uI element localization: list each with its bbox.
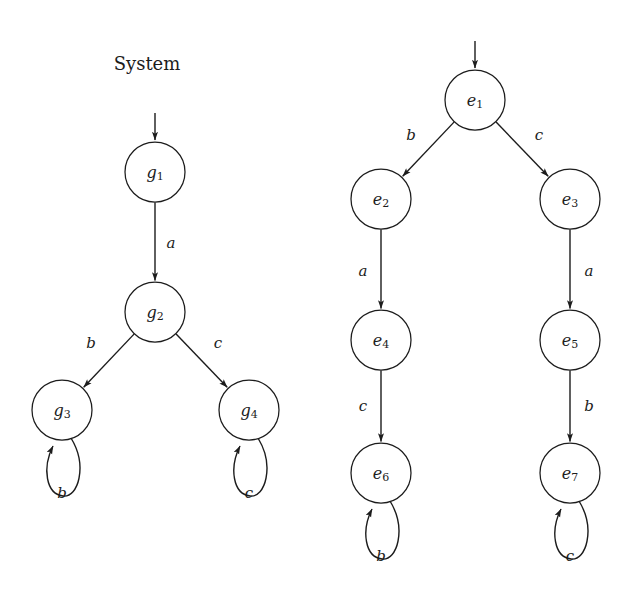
state-node-g2[interactable]: g2 [125,282,185,342]
transition-label-e2-e4: a [359,262,368,280]
self-loop-label-e6: b [376,547,386,565]
state-node-e1[interactable]: e1 [445,70,505,130]
state-node-e2[interactable]: e2 [351,169,411,229]
diagram-canvas: Systemabcbcg1g2g3g4bcaacbbce1e2e3e4e5e6e… [0,0,637,599]
transition-label-e4-e6: c [359,397,368,415]
diagram-render-root: Systemabcbcg1g2g3g4bcaacbbce1e2e3e4e5e6e… [32,41,600,565]
automaton-panel-right-automaton: bcaacbbce1e2e3e4e5e6e7 [351,41,600,565]
transition-label-g2-g4: c [214,334,223,352]
transition-label-e1-e3: c [535,126,544,144]
self-loop-label-g3: b [57,484,67,502]
state-node-e5[interactable]: e5 [540,310,600,370]
panel-title: System [114,53,181,74]
state-node-e4[interactable]: e4 [351,310,411,370]
self-loop-label-e7: c [566,547,575,565]
state-node-g4[interactable]: g4 [219,380,279,440]
automaton-diagram: Systemabcbcg1g2g3g4bcaacbbce1e2e3e4e5e6e… [0,0,637,599]
transition-label-g1-g2: a [167,234,176,252]
self-loop-label-g4: c [245,484,254,502]
transition-label-g2-g3: b [86,334,96,352]
state-node-e6[interactable]: e6 [351,443,411,503]
transition-label-e5-e7: b [584,397,594,415]
state-node-g3[interactable]: g3 [32,380,92,440]
state-node-g1[interactable]: g1 [125,142,185,202]
state-node-e3[interactable]: e3 [540,169,600,229]
transition-label-e3-e5: a [585,262,594,280]
automaton-panel-left-automaton: Systemabcbcg1g2g3g4 [32,53,279,502]
transition-label-e1-e2: b [406,126,416,144]
state-node-e7[interactable]: e7 [540,443,600,503]
